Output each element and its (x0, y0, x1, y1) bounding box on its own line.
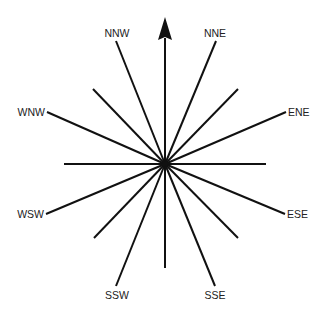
label-ssw: SSW (105, 289, 129, 301)
label-wnw: WNW (18, 106, 45, 118)
ray-nw (93, 89, 165, 164)
label-ene: ENE (288, 106, 310, 118)
label-nne: NNE (204, 27, 226, 39)
label-sse: SSE (204, 289, 225, 301)
label-wsw: WSW (17, 208, 44, 220)
ray-sw (94, 164, 165, 238)
label-ese: ESE (287, 208, 308, 220)
ray-se (165, 164, 238, 238)
compass-rose-diagram: NNW NNE WNW ENE WSW ESE SSW SSE (0, 0, 325, 313)
north-arrowhead-icon (158, 17, 172, 40)
ray-ne (165, 89, 238, 164)
center-hub (162, 161, 168, 167)
label-nnw: NNW (104, 27, 129, 39)
